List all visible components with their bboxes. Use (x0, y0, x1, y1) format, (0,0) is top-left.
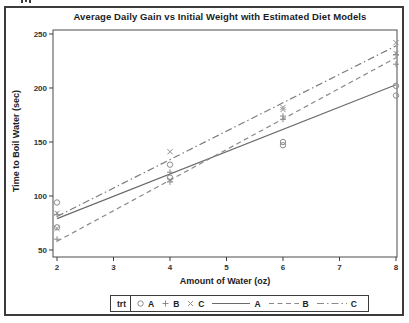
legend-label: B (303, 299, 309, 309)
solid-line-icon (211, 299, 251, 308)
figure-screenshot: Average Daily Gain vs Initial Weight wit… (0, 0, 409, 323)
legend-line-item-A: A (211, 299, 260, 309)
circle-marker-icon (136, 299, 145, 308)
dashed-line-icon (268, 299, 300, 308)
x-tick-label: 3 (111, 263, 116, 272)
legend-line-item-C: C (316, 299, 357, 309)
legend-label: C (198, 299, 204, 309)
x-tick-label: 4 (168, 263, 173, 272)
legend-marker-item-A: A (136, 299, 154, 309)
x-tick-label: 2 (55, 263, 60, 272)
x-tick-label: 8 (394, 263, 399, 272)
y-tick-label: 250 (34, 30, 48, 39)
legend-label: A (254, 299, 260, 309)
cross-marker-icon (186, 299, 195, 308)
plus-marker-icon (161, 299, 170, 308)
legend-label: A (148, 299, 154, 309)
legend-items: ABCABC (136, 299, 364, 309)
y-axis-label: Time to Boil Water (sec) (11, 41, 21, 241)
dashdot-line-icon (316, 299, 348, 308)
legend-box: trt ABCABC (110, 295, 369, 312)
legend-label: B (173, 299, 179, 309)
legend-line-item-B: B (268, 299, 309, 309)
y-tick-label: 50 (38, 246, 47, 255)
legend-divider (130, 296, 131, 311)
y-tick-label: 200 (34, 84, 48, 93)
y-tick-label: 150 (34, 138, 48, 147)
x-tick-label: 6 (281, 263, 286, 272)
x-tick-label: 5 (224, 263, 229, 272)
legend-label: C (351, 299, 357, 309)
legend-marker-item-B: B (161, 299, 179, 309)
legend-marker-item-C: C (186, 299, 204, 309)
legend-title: trt (115, 299, 130, 309)
plot-wall (53, 30, 397, 257)
x-tick-label: 7 (337, 263, 342, 272)
y-tick-label: 100 (34, 192, 48, 201)
chart-canvas: 501001502002502345678 (0, 0, 409, 323)
x-axis-label: Amount of Water (oz) (53, 276, 397, 286)
